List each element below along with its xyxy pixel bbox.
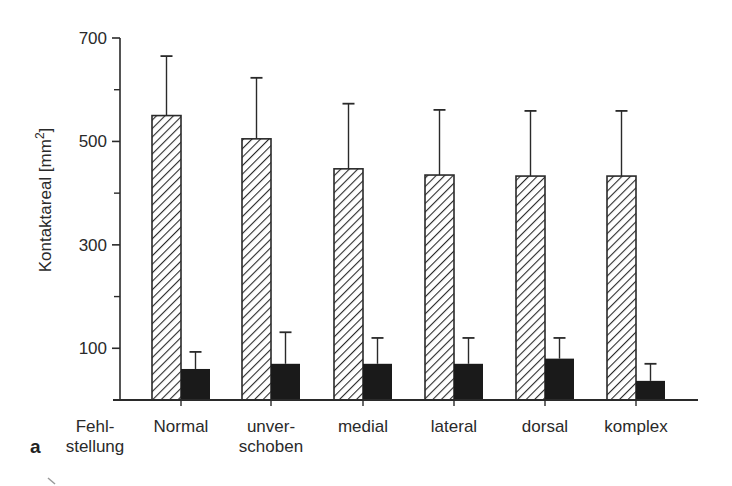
- category-label: komplex: [604, 417, 668, 436]
- category-label: schoben: [239, 437, 303, 456]
- y-tick-label: 700: [79, 29, 107, 48]
- bar-hatched: [425, 175, 454, 400]
- bar-hatched: [242, 139, 271, 400]
- x-axis-title-line2: stellung: [66, 437, 125, 456]
- bar-solid: [545, 359, 574, 400]
- category-label: Normal: [154, 417, 209, 436]
- y-axis: 100300500700: [79, 29, 120, 400]
- x-axis-title-line1: Fehl-: [76, 417, 115, 436]
- category-label: dorsal: [522, 417, 568, 436]
- bar-hatched: [152, 116, 181, 400]
- y-axis-title: Kontaktareal [mm2]: [33, 128, 55, 273]
- category-label: medial: [338, 417, 388, 436]
- bar-chart: 100300500700 Normalunver-schobenmedialla…: [0, 0, 732, 486]
- bar-hatched: [334, 169, 363, 400]
- bar-solid: [454, 364, 483, 400]
- x-axis: [113, 400, 698, 406]
- bar-solid: [181, 369, 210, 400]
- panel-letter: a: [30, 436, 41, 457]
- category-label: unver-: [247, 417, 295, 436]
- bar-solid: [271, 364, 300, 400]
- category-label: lateral: [431, 417, 477, 436]
- bar-hatched: [607, 176, 636, 400]
- y-tick-label: 500: [79, 132, 107, 151]
- y-tick-label: 300: [79, 236, 107, 255]
- bar-hatched: [516, 176, 545, 400]
- category-labels: Normalunver-schobenmediallateraldorsalko…: [154, 417, 669, 456]
- bar-solid: [363, 364, 392, 400]
- bars: [152, 56, 665, 400]
- y-tick-label: 100: [79, 339, 107, 358]
- scan-artifact-mark: [48, 478, 55, 484]
- bar-solid: [636, 381, 665, 400]
